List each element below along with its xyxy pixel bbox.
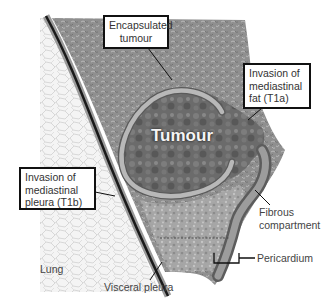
label-line: mediastinal (249, 80, 305, 93)
label-line: Invasion of (249, 67, 305, 80)
label-invasion-t1b: Invasion of mediastinal pleura (T1b) (19, 167, 96, 210)
label-line: Fibrous (259, 206, 320, 219)
label-encapsulated-tumour: Encapsulated tumour (103, 15, 169, 49)
label-line: Invasion of (25, 171, 90, 184)
label-pericardium: Pericardium (257, 252, 313, 265)
label-line: mediastinal (25, 184, 90, 197)
label-visceral-pleura: Visceral pleura (104, 281, 173, 294)
label-line: pleura (T1b) (25, 196, 90, 209)
label-line: compartment (259, 219, 320, 232)
label-line: Encapsulated (109, 19, 163, 32)
thymoma-staging-diagram: Tumour Encapsulated tumour Invasion of m… (0, 0, 334, 299)
label-line: tumour (109, 32, 163, 45)
label-line: fat (T1a) (249, 92, 305, 105)
label-invasion-t1a: Invasion of mediastinal fat (T1a) (243, 63, 311, 109)
label-lung: Lung (40, 263, 63, 276)
tumour-label: Tumour (151, 126, 213, 146)
label-fibrous-compartment: Fibrous compartment (259, 206, 320, 231)
